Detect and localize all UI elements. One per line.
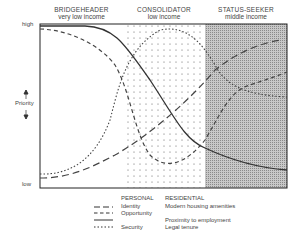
legend-security-residential: Legal tenure (165, 224, 198, 230)
priority-arrows-icon (24, 90, 28, 119)
diagram-canvas (0, 0, 304, 244)
legend-identity-residential: Modern housing amenities (165, 203, 235, 209)
legend-header-residential: RESIDENTIAL (165, 195, 204, 201)
legend-opportunity-personal: Opportunity (121, 210, 152, 216)
legend-identity-personal: Identity (121, 203, 140, 209)
legend-header-personal: PERSONAL (121, 195, 154, 201)
legend-proximity-residential: Proximity to employment (165, 217, 231, 223)
legend-security-personal: Security (121, 224, 143, 230)
